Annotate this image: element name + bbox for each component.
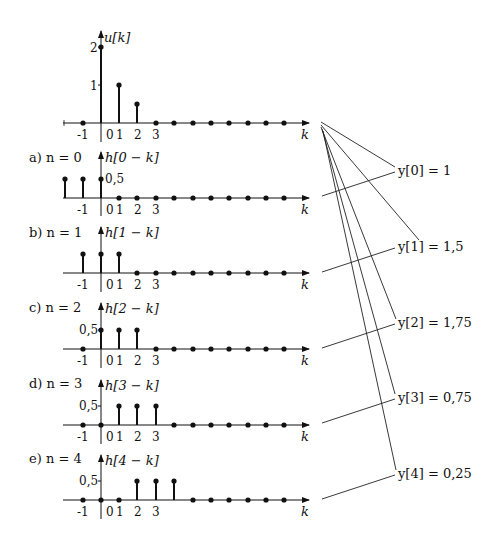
- svg-text:3: 3: [152, 430, 160, 444]
- row-n1: b) n = 1 h[1 − k] k -1 0 1 2 3: [29, 225, 309, 292]
- result-y1: y[1] = 1,5: [397, 239, 464, 254]
- svg-text:k: k: [301, 504, 309, 519]
- row-n4: e) n = 4 h[4 − k] 0,5 k -1 0 1 2 3: [29, 451, 309, 519]
- svg-text:-1: -1: [77, 354, 89, 368]
- svg-text:1: 1: [116, 203, 124, 217]
- ytick-1: 1: [90, 79, 98, 93]
- connector-lines: [321, 122, 419, 499]
- svg-text:3: 3: [152, 128, 160, 142]
- svg-text:0: 0: [106, 203, 114, 217]
- row-n2: c) n = 2 h[2 − k] 0,5 k -1 0 1 2 3: [29, 300, 309, 368]
- result-y4: y[4] = 0,25: [397, 466, 472, 481]
- row-n0: a) n = 0 h[0 − k] 0,5 k -1 0 1 2 3: [29, 150, 309, 217]
- svg-text:1: 1: [116, 128, 124, 142]
- svg-text:1: 1: [116, 354, 124, 368]
- svg-text:-1: -1: [77, 128, 89, 142]
- svg-text:h[0 − k]: h[0 − k]: [105, 150, 160, 165]
- svg-text:2: 2: [134, 505, 142, 519]
- svg-text:2: 2: [134, 278, 142, 292]
- svg-text:0: 0: [106, 278, 114, 292]
- svg-text:1: 1: [116, 505, 124, 519]
- svg-text:-1: -1: [77, 203, 89, 217]
- y-axis-label: u[k]: [104, 30, 131, 45]
- svg-text:3: 3: [152, 203, 160, 217]
- result-y2: y[2] = 1,75: [397, 315, 472, 330]
- svg-text:3: 3: [152, 505, 160, 519]
- svg-text:b) n = 1: b) n = 1: [29, 225, 82, 240]
- svg-text:1: 1: [116, 278, 124, 292]
- svg-text:1: 1: [116, 430, 124, 444]
- svg-text:3: 3: [152, 354, 160, 368]
- svg-text:-1: -1: [77, 505, 89, 519]
- svg-text:0: 0: [106, 430, 114, 444]
- svg-text:h[2 − k]: h[2 − k]: [105, 301, 160, 316]
- convolution-diagram: u[k] 2 1 k -1 0 1 2 3 a) n = 0 h[0 − k] …: [0, 0, 484, 541]
- svg-text:0,5: 0,5: [79, 474, 98, 488]
- svg-text:c) n = 2: c) n = 2: [29, 300, 81, 315]
- svg-text:0: 0: [106, 505, 114, 519]
- ytick-2: 2: [90, 41, 98, 55]
- svg-text:3: 3: [152, 278, 160, 292]
- svg-text:0: 0: [106, 354, 114, 368]
- svg-text:k: k: [301, 429, 309, 444]
- svg-text:d) n = 3: d) n = 3: [29, 376, 82, 391]
- result-y3: y[3] = 0,75: [397, 390, 472, 405]
- svg-text:0: 0: [106, 128, 114, 142]
- svg-text:2: 2: [134, 203, 142, 217]
- svg-text:k: k: [301, 202, 309, 217]
- svg-text:h[4 − k]: h[4 − k]: [105, 453, 160, 468]
- svg-text:2: 2: [134, 430, 142, 444]
- result-y0: y[0] = 1: [397, 163, 451, 178]
- svg-text:-1: -1: [77, 430, 89, 444]
- svg-text:0,5: 0,5: [105, 172, 124, 186]
- svg-text:e) n = 4: e) n = 4: [29, 451, 82, 466]
- x-axis-label: k: [301, 127, 309, 142]
- svg-text:0,5: 0,5: [79, 323, 98, 337]
- svg-text:h[3 − k]: h[3 − k]: [105, 378, 160, 393]
- svg-text:-1: -1: [77, 278, 89, 292]
- svg-text:h[1 − k]: h[1 − k]: [105, 225, 160, 240]
- row-caption: a) n = 0: [29, 150, 82, 165]
- svg-text:k: k: [301, 353, 309, 368]
- svg-text:k: k: [301, 277, 309, 292]
- input-plot-u: u[k] 2 1 k -1 0 1 2 3: [63, 30, 309, 142]
- svg-text:2: 2: [134, 128, 142, 142]
- row-n3: d) n = 3 h[3 − k] 0,5 k -1 0 1 2 3: [29, 376, 309, 444]
- results: y[0] = 1 y[1] = 1,5 y[2] = 1,75 y[3] = 0…: [397, 163, 472, 481]
- svg-text:2: 2: [134, 354, 142, 368]
- svg-text:0,5: 0,5: [79, 399, 98, 413]
